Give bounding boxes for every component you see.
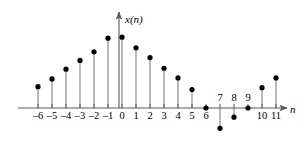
sample-dot <box>217 126 222 131</box>
x-tick-label-5: 5 <box>189 111 194 122</box>
sample-dot <box>161 66 166 71</box>
stems-group <box>38 37 276 128</box>
x-tick-label-11: 11 <box>271 111 281 122</box>
x-tick-label-1: 1 <box>133 111 138 122</box>
x-tick-label-6: 6 <box>203 111 208 122</box>
sample-dot <box>133 45 138 50</box>
x-tick-label--6: –6 <box>33 111 44 122</box>
sample-dot <box>119 35 124 40</box>
x-tick-label--1: –1 <box>103 111 114 122</box>
x-tick-label--3: –3 <box>75 111 86 122</box>
x-tick-label-0: 0 <box>119 111 124 122</box>
sample-dot <box>77 58 82 63</box>
sample-dot <box>175 75 180 80</box>
sample-dot <box>63 67 68 72</box>
x-tick-label-4: 4 <box>175 111 180 122</box>
x-tick-label--4: –4 <box>61 111 72 122</box>
dots-group <box>35 35 278 131</box>
sample-dot <box>273 75 278 80</box>
y-axis-label: x(n) <box>125 14 143 25</box>
x-tick-label-10: 10 <box>257 111 268 122</box>
sample-dot <box>49 76 54 81</box>
sample-dot <box>105 36 110 41</box>
sample-dot <box>189 87 194 92</box>
sample-dot <box>147 55 152 60</box>
sample-dot <box>35 84 40 89</box>
sample-dot <box>231 115 236 120</box>
sample-dot <box>259 85 264 90</box>
sample-dot <box>245 105 250 110</box>
stem-plot-figure: –6–5–4–3–2–101234567891011 x(n) n <box>0 0 304 143</box>
x-tick-label--2: –2 <box>89 111 100 122</box>
sample-dot <box>91 49 96 54</box>
x-tick-label-2: 2 <box>147 111 152 122</box>
x-axis-label: n <box>290 104 296 115</box>
stem-plot-canvas <box>0 0 304 143</box>
x-tick-label--5: –5 <box>47 111 58 122</box>
x-tick-label-3: 3 <box>161 111 166 122</box>
x-tick-label-above-8: 8 <box>231 93 236 104</box>
x-tick-label-above-9: 9 <box>245 93 250 104</box>
x-tick-label-above-7: 7 <box>217 93 222 104</box>
